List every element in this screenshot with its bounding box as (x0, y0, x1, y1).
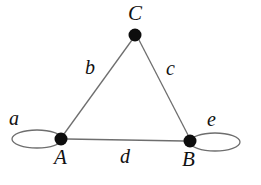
edge-label-c: c (166, 58, 175, 78)
loop-label-a: a (9, 108, 19, 128)
edge-label-d: d (120, 146, 130, 166)
vertex-label-a: A (54, 147, 67, 168)
graph-diagram-canvas: C A B b c d a e (0, 0, 261, 185)
vertex-label-c: C (128, 3, 142, 24)
edge-d (67, 139, 184, 141)
vertex-C (129, 29, 142, 42)
edge-c (139, 40, 188, 135)
edge-b (64, 40, 132, 134)
vertex-label-b: B (182, 149, 195, 170)
edge-label-b: b (85, 57, 95, 77)
vertex-A (55, 133, 68, 146)
loop-label-e: e (207, 109, 216, 129)
vertex-B (184, 135, 197, 148)
graph-drawing (0, 0, 261, 185)
self-loop-e (190, 133, 240, 151)
